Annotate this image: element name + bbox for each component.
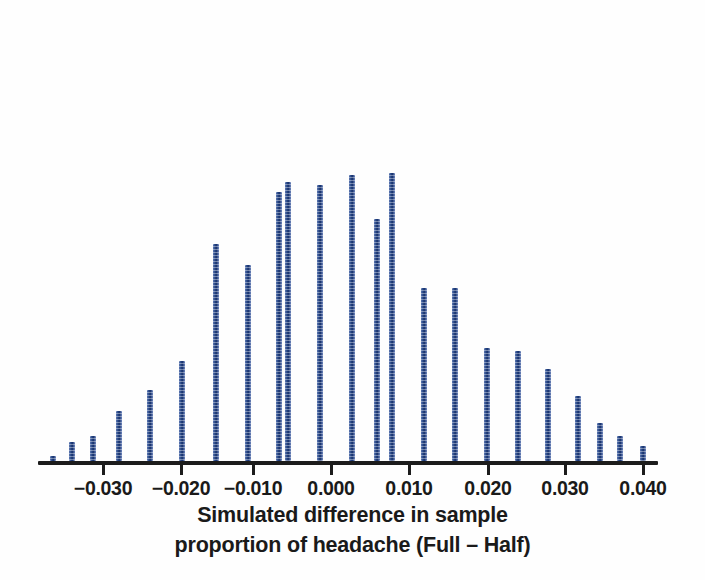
histogram-bar	[421, 288, 427, 461]
x-axis-tick-label: 0.010	[364, 477, 454, 500]
histogram-bar	[90, 436, 96, 461]
x-axis-tick	[330, 464, 333, 475]
x-axis-tick-label: 0.030	[520, 477, 610, 500]
x-axis-tick	[408, 464, 411, 475]
histogram-bar	[374, 219, 380, 461]
histogram-bar	[179, 361, 185, 461]
histogram-bar	[276, 192, 282, 461]
histogram-bar	[389, 173, 395, 461]
histogram-bar	[597, 423, 603, 461]
x-axis-tick-label: 0.000	[286, 477, 376, 500]
histogram-bar	[349, 175, 355, 461]
histogram-bar	[285, 182, 291, 461]
histogram-bar	[515, 351, 521, 461]
x-axis-title: Simulated difference in sample proportio…	[0, 500, 705, 560]
histogram-bar	[617, 436, 623, 461]
plot-area	[0, 0, 705, 470]
x-axis-tick	[564, 464, 567, 475]
histogram-bar	[640, 446, 646, 461]
histogram-bar	[317, 185, 323, 461]
histogram-bar	[147, 390, 153, 461]
x-axis-tick	[642, 464, 645, 475]
x-axis-tick	[252, 464, 255, 475]
histogram-bar	[575, 396, 581, 461]
histogram-bar	[452, 288, 458, 461]
x-axis-tick-label: −0.010	[208, 477, 298, 500]
histogram-bar	[116, 411, 122, 461]
histogram-bar	[69, 442, 75, 461]
x-axis-title-line-1: Simulated difference in sample	[0, 500, 705, 530]
histogram-bar	[545, 369, 551, 461]
x-axis-tick	[487, 464, 490, 475]
histogram-bar	[213, 244, 219, 461]
x-axis-tick-label: −0.030	[58, 477, 148, 500]
histogram-chart: −0.030−0.020−0.0100.0000.0100.0200.0300.…	[0, 0, 705, 580]
x-axis-title-line-2: proportion of headache (Full – Half)	[0, 530, 705, 560]
x-axis-tick	[180, 464, 183, 475]
x-axis-tick	[102, 464, 105, 475]
histogram-bar	[484, 348, 490, 461]
histogram-bar	[245, 265, 251, 461]
x-axis-tick-label: 0.040	[598, 477, 688, 500]
